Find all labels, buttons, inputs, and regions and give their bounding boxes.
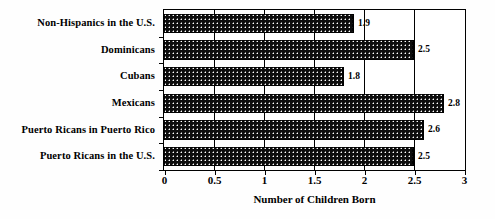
bar-band: 2.6 — [164, 117, 464, 144]
bar-value-label: 2.5 — [414, 40, 430, 60]
bar-value-label: 2.8 — [444, 94, 460, 114]
bar — [164, 14, 354, 34]
category-label: Puerto Ricans in Puerto Rico — [22, 117, 155, 144]
bar-value-label: 1.9 — [354, 14, 370, 34]
bar-band: 2.8 — [164, 90, 464, 117]
bar — [164, 120, 424, 140]
category-axis-labels: Non-Hispanics in the U.S.DominicansCuban… — [0, 10, 159, 170]
x-axis-tick-label: 2 — [362, 174, 368, 186]
x-axis-tick-label: 3 — [462, 174, 468, 186]
bar-band: 2.5 — [164, 143, 464, 170]
category-label: Mexicans — [112, 90, 155, 117]
bar-value-label: 2.6 — [424, 120, 440, 140]
bar-value-label: 1.8 — [344, 67, 360, 87]
y-axis-tickmark — [159, 117, 163, 118]
x-axis-title: Number of Children Born — [163, 193, 466, 205]
x-axis-tick-label: 2.5 — [408, 174, 422, 186]
bar-value-label: 2.5 — [414, 147, 430, 167]
category-label: Dominicans — [101, 37, 155, 64]
y-axis-tickmark — [159, 90, 163, 91]
bar-band: 2.5 — [164, 37, 464, 64]
category-label: Cubans — [120, 63, 155, 90]
x-axis-tick-label: 0 — [162, 174, 168, 186]
bar-chart: Non-Hispanics in the U.S.DominicansCuban… — [0, 0, 495, 219]
plot-inner: 1.92.51.82.82.62.5 — [164, 10, 465, 170]
x-axis-tick-label: 1.5 — [308, 174, 322, 186]
y-axis-tickmark — [159, 37, 163, 38]
bar — [164, 67, 344, 87]
category-label: Non-Hispanics in the U.S. — [37, 10, 155, 37]
bar-band: 1.8 — [164, 63, 464, 90]
plot-area: 1.92.51.82.82.62.5 — [163, 9, 466, 171]
category-label: Puerto Ricans in the U.S. — [40, 143, 155, 170]
y-axis-tickmark — [159, 170, 163, 171]
bar — [164, 40, 414, 60]
x-axis-tick-label: 0.5 — [208, 174, 222, 186]
x-axis-tick-labels: 00.511.522.53 — [163, 174, 466, 190]
y-axis-tickmark — [159, 63, 163, 64]
bar — [164, 147, 414, 167]
y-axis-tickmark — [159, 143, 163, 144]
x-axis-tick-label: 1 — [262, 174, 268, 186]
bar-band: 1.9 — [164, 10, 464, 37]
bar — [164, 94, 444, 114]
